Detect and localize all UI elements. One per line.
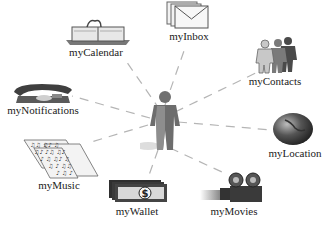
svg-text:♫♪ ♪♫ ♫♪: ♫♪ ♪♫ ♫♪ — [34, 148, 66, 155]
svg-text:♫ ♪ ♫♫: ♫ ♪ ♫♫ — [48, 162, 72, 169]
globe-icon — [271, 112, 315, 146]
node-label: myCalendar — [69, 46, 123, 58]
movie-camera-icon — [200, 172, 268, 204]
node-label: myInbox — [169, 30, 209, 42]
money-icon: $ — [108, 178, 168, 204]
node-label: myContacts — [249, 75, 302, 87]
people-icon — [252, 36, 300, 74]
node-label: myNotifications — [7, 104, 79, 116]
link-location — [178, 122, 272, 130]
envelope-icon — [166, 0, 212, 30]
svg-text:$: $ — [142, 188, 149, 199]
calendar-icon — [62, 18, 134, 46]
svg-text:♪ ♫ ♫♪ ♫: ♪ ♫ ♫♪ ♫ — [40, 155, 70, 162]
link-notifications — [72, 96, 150, 118]
telephone-icon — [12, 82, 74, 104]
sheet-music-icon: ♫♫ ♫♪ ♫ ♫♪ ♪♫ ♫♪ ♪ ♫ ♫♪ ♫ ♫ ♪ ♫♫ ♪ ♫ ♪ — [22, 138, 102, 180]
svg-text:♫♫ ♫♪ ♫: ♫♫ ♫♪ ♫ — [30, 141, 59, 148]
person-icon — [140, 88, 185, 158]
svg-text:♪ ♫ ♪: ♪ ♫ ♪ — [56, 169, 73, 176]
node-label: myWallet — [116, 205, 159, 217]
node-label: myMusic — [38, 179, 80, 191]
services-diagram: myCalendar myInbox myContacts myNotifica… — [0, 0, 329, 227]
node-label: myLocation — [268, 147, 321, 159]
node-label: myMovies — [210, 205, 257, 217]
